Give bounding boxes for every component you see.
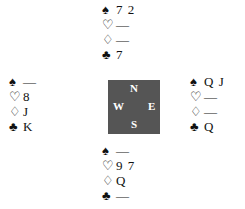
spade-icon: ♠	[102, 2, 116, 17]
club-icon: ♣	[9, 119, 23, 134]
west-hearts-cards: 8	[23, 89, 31, 104]
east-diamonds-cards: —	[204, 104, 218, 119]
south-clubs-cards: —	[116, 188, 130, 203]
north-diamonds-cards: —	[116, 32, 130, 47]
south-hand: ♠ — ♡ 9 7 ♢ Q ♣ —	[102, 143, 135, 203]
west-spades-cards: —	[23, 74, 37, 89]
compass-box: N W E S	[108, 80, 160, 134]
compass-west-label: W	[113, 100, 124, 112]
north-hearts-cards: —	[116, 17, 130, 32]
compass-east-label: E	[148, 100, 155, 112]
north-clubs-cards: 7	[116, 47, 124, 62]
club-icon: ♣	[102, 188, 116, 203]
west-diamonds-cards: J	[23, 104, 29, 119]
north-spades-cards: 7 2	[116, 2, 135, 17]
north-hearts-row: ♡ —	[102, 17, 135, 32]
north-diamonds-row: ♢ —	[102, 32, 135, 47]
south-spades-row: ♠ —	[102, 143, 135, 158]
east-clubs-cards: Q	[204, 119, 214, 134]
diamond-icon: ♢	[9, 104, 23, 119]
diamond-icon: ♢	[102, 173, 116, 188]
south-hearts-row: ♡ 9 7	[102, 158, 135, 173]
club-icon: ♣	[190, 119, 204, 134]
west-clubs-row: ♣ K	[9, 119, 37, 134]
heart-icon: ♡	[102, 158, 116, 173]
diamond-icon: ♢	[190, 104, 204, 119]
heart-icon: ♡	[190, 89, 204, 104]
north-hand: ♠ 7 2 ♡ — ♢ — ♣ 7	[102, 2, 135, 62]
compass-north-label: N	[130, 82, 138, 94]
west-diamonds-row: ♢ J	[9, 104, 37, 119]
spade-icon: ♠	[190, 74, 204, 89]
east-hand: ♠ Q J ♡ — ♢ — ♣ Q	[190, 74, 225, 134]
east-hearts-cards: —	[204, 89, 218, 104]
compass-south-label: S	[131, 118, 137, 130]
south-clubs-row: ♣ —	[102, 188, 135, 203]
east-clubs-row: ♣ Q	[190, 119, 225, 134]
east-spades-row: ♠ Q J	[190, 74, 225, 89]
north-clubs-row: ♣ 7	[102, 47, 135, 62]
spade-icon: ♠	[9, 74, 23, 89]
club-icon: ♣	[102, 47, 116, 62]
south-diamonds-row: ♢ Q	[102, 173, 135, 188]
west-hand: ♠ — ♡ 8 ♢ J ♣ K	[9, 74, 37, 134]
spade-icon: ♠	[102, 143, 116, 158]
south-hearts-cards: 9 7	[116, 158, 135, 173]
west-clubs-cards: K	[23, 119, 33, 134]
heart-icon: ♡	[102, 17, 116, 32]
north-spades-row: ♠ 7 2	[102, 2, 135, 17]
east-diamonds-row: ♢ —	[190, 104, 225, 119]
east-hearts-row: ♡ —	[190, 89, 225, 104]
heart-icon: ♡	[9, 89, 23, 104]
west-hearts-row: ♡ 8	[9, 89, 37, 104]
east-spades-cards: Q J	[204, 74, 225, 89]
west-spades-row: ♠ —	[9, 74, 37, 89]
south-diamonds-cards: Q	[116, 173, 126, 188]
south-spades-cards: —	[116, 143, 130, 158]
diamond-icon: ♢	[102, 32, 116, 47]
